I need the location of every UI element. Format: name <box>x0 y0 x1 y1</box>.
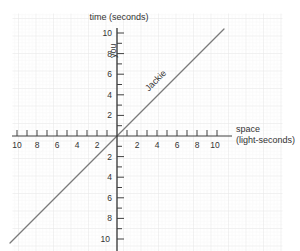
x-tick-label: 6 <box>49 140 65 150</box>
x-tick-label: 6 <box>169 140 185 150</box>
x-tick-label: 4 <box>69 140 85 150</box>
x-axis-title: space (light-seconds) <box>236 124 300 146</box>
y-tick-label: 4 <box>98 172 112 182</box>
x-tick-label: 2 <box>129 140 145 150</box>
y-tick-label: 8 <box>98 213 112 223</box>
x-tick-label: 8 <box>189 140 205 150</box>
y-tick-label: 10 <box>96 234 110 244</box>
x-tick-label: 10 <box>9 140 25 150</box>
x-tick-label: 8 <box>29 140 45 150</box>
y-tick-label: 6 <box>98 193 112 203</box>
x-tick-label: 2 <box>89 140 105 150</box>
x-tick-label: 4 <box>149 140 165 150</box>
x-tick-label: 10 <box>207 140 223 150</box>
x-axis-title-line1: space <box>236 124 300 135</box>
y-tick-label: 2 <box>98 152 112 162</box>
cropped-footer-text <box>0 246 300 251</box>
y-tick-label: 6 <box>98 69 112 79</box>
worldline-label-you: you <box>108 43 118 58</box>
spacetime-diagram: time (seconds) space (light-seconds) 10 … <box>0 0 300 251</box>
y-tick-label: 4 <box>98 90 112 100</box>
x-axis-title-line2: (light-seconds) <box>236 135 300 146</box>
y-tick-label: 2 <box>98 110 112 120</box>
y-axis-title: time (seconds) <box>79 12 159 23</box>
y-tick-label: 10 <box>98 28 112 38</box>
